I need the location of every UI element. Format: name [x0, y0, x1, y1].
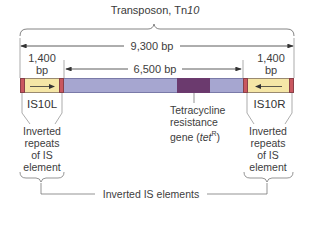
right-bottom-brace: [244, 172, 293, 182]
tet-italic: tet: [200, 131, 212, 143]
tet-line1: Tetracycline: [170, 104, 250, 116]
inverted-repeats-right-label: Inverted repeats of IS element: [236, 125, 300, 173]
left-is-length: 1,400 bp: [22, 52, 62, 76]
bottom-connector-right: [207, 183, 267, 194]
total-length-label: 9,300 bp: [124, 40, 180, 52]
top-brace: [20, 24, 294, 36]
central-length-label: 6,500 bp: [128, 63, 182, 75]
irr-line1: Inverted: [236, 125, 300, 137]
is10l-segment: [25, 78, 59, 93]
right-is-length-num: 1,400: [250, 52, 292, 64]
central-region-right: [210, 78, 243, 93]
irl-line1: Inverted: [10, 125, 74, 137]
irl-line4: element: [10, 161, 74, 173]
left-arrow-icon: [248, 79, 289, 94]
bottom-connector-left: [41, 183, 95, 194]
right-arrow-icon: [25, 79, 59, 94]
left-is-length-num: 1,400: [22, 52, 62, 64]
right-outer-repeat: [289, 78, 294, 93]
tet-gene-segment: [177, 78, 210, 93]
is10r-segment: [248, 78, 289, 93]
tet-line3-prefix: gene (: [170, 131, 200, 143]
inverted-repeats-left-label: Inverted repeats of IS element: [10, 125, 74, 173]
irr-line2: repeats: [236, 137, 300, 149]
is10l-label: IS10L: [22, 98, 62, 110]
left-is-length-unit: bp: [22, 64, 62, 76]
inverted-is-elements-label: Inverted IS elements: [95, 188, 207, 200]
irr-line3: of IS: [236, 149, 300, 161]
right-is-length: 1,400 bp: [250, 52, 292, 76]
is10r-label: IS10R: [247, 98, 292, 110]
irr-line4: element: [236, 161, 300, 173]
central-region-left: [64, 78, 177, 93]
right-is-length-unit: bp: [250, 64, 292, 76]
left-bottom-brace: [20, 172, 64, 182]
irl-line2: repeats: [10, 137, 74, 149]
irl-line3: of IS: [10, 149, 74, 161]
tet-line3-suffix: ): [217, 131, 221, 143]
